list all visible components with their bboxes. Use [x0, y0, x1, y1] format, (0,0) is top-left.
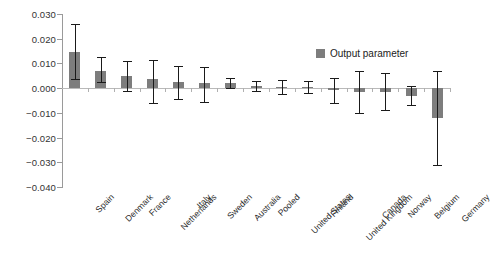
error-bar-line [256, 81, 257, 91]
error-bar-cap-lower [226, 88, 235, 89]
x-axis-tick-mark [243, 88, 244, 92]
error-bar-cap-upper [174, 66, 183, 67]
x-axis-category-label: Sweden [225, 192, 254, 221]
x-axis-tick-mark [191, 88, 192, 92]
error-bar-line [178, 66, 179, 99]
chart-legend: Output parameter [316, 48, 408, 59]
y-axis-tick-label: 0.030 [4, 9, 56, 20]
error-bar-line [437, 71, 438, 165]
x-axis-tick-mark [398, 88, 399, 92]
y-axis-tick-label: 0.000 [4, 83, 56, 94]
y-axis-tick-label: −0.010 [4, 107, 56, 118]
error-bar-cap-upper [407, 86, 416, 87]
error-bar-cap-upper [71, 24, 80, 25]
x-axis-tick-mark [140, 88, 141, 92]
error-bar-cap-lower [174, 99, 183, 100]
y-axis-tick-label: 0.020 [4, 33, 56, 44]
legend-swatch-output-parameter [316, 49, 325, 58]
error-bar-line [153, 60, 154, 103]
error-bar-line [334, 78, 335, 103]
error-bar-cap-upper [381, 73, 390, 74]
error-bar-cap-upper [433, 71, 442, 72]
x-axis-tick-mark [114, 88, 115, 92]
error-bar-cap-lower [97, 82, 106, 83]
error-bar-cap-lower [71, 79, 80, 80]
plot-area [62, 14, 450, 187]
y-axis-tick-mark [57, 187, 62, 188]
y-axis-tick-label: −0.020 [4, 132, 56, 143]
error-bar-line [230, 78, 231, 87]
error-bar-line [308, 81, 309, 93]
error-bar-cap-lower [252, 91, 261, 92]
error-bar-cap-lower [149, 103, 158, 104]
y-axis-tick-label: 0.010 [4, 58, 56, 69]
error-bar-line [411, 86, 412, 106]
x-axis-tick-mark [217, 88, 218, 92]
error-bar-cap-lower [330, 103, 339, 104]
x-axis-category-label: Belgium [432, 192, 461, 221]
x-axis-tick-mark [165, 88, 166, 92]
error-bar-line [75, 24, 76, 80]
error-bar-cap-upper [97, 57, 106, 58]
x-axis-category-label: Spain [93, 192, 116, 215]
error-bar-cap-lower [304, 93, 313, 94]
y-axis-tick-label: −0.040 [4, 182, 56, 193]
error-bar-cap-upper [200, 67, 209, 68]
error-bar-cap-lower [381, 110, 390, 111]
x-axis-tick-mark [269, 88, 270, 92]
error-bar-line [204, 67, 205, 102]
error-bar-line [127, 61, 128, 91]
error-bar-line [101, 57, 102, 82]
error-bar-cap-upper [355, 71, 364, 72]
error-bar-cap-upper [278, 80, 287, 81]
x-axis-tick-mark [88, 88, 89, 92]
error-bar-cap-lower [278, 94, 287, 95]
x-axis-tick-mark [347, 88, 348, 92]
error-bar-cap-lower [355, 113, 364, 114]
error-bar-cap-lower [433, 165, 442, 166]
x-axis-tick-mark [295, 88, 296, 92]
error-bar-cap-upper [252, 81, 261, 82]
legend-label-output-parameter: Output parameter [330, 48, 408, 59]
error-bar-cap-upper [149, 60, 158, 61]
error-bar-cap-upper [226, 78, 235, 79]
error-bar-cap-upper [330, 78, 339, 79]
error-bar-cap-upper [304, 81, 313, 82]
x-axis-tick-mark [424, 88, 425, 92]
error-bar-cap-upper [123, 61, 132, 62]
x-axis-tick-mark [321, 88, 322, 92]
error-bar-line [282, 80, 283, 93]
error-bar-cap-lower [200, 102, 209, 103]
x-axis-tick-mark [450, 88, 451, 92]
x-axis-tick-mark [372, 88, 373, 92]
error-bar-line [359, 71, 360, 113]
y-axis-tick-label: −0.030 [4, 157, 56, 168]
error-bar-cap-lower [407, 105, 416, 106]
x-axis-category-label: Germany [459, 192, 491, 224]
error-bar-line [385, 73, 386, 110]
error-bar-cap-lower [123, 91, 132, 92]
